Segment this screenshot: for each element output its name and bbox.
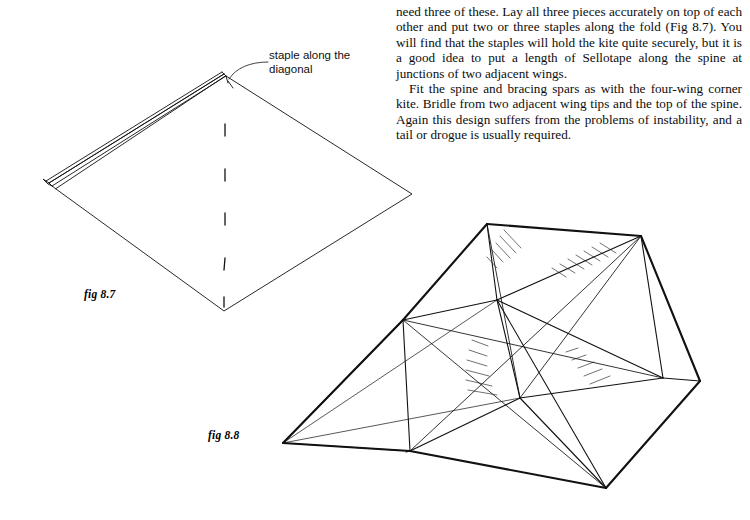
fig-8-7-diamond xyxy=(43,72,412,311)
hatching-upper-left xyxy=(487,230,521,268)
fig-8-7-leader xyxy=(229,62,268,79)
fig-8-8-bridle-lines xyxy=(283,300,520,451)
paragraph-2: Fit the spine and bracing spars as with … xyxy=(396,81,742,143)
figure-caption-8-7: fig 8.7 xyxy=(84,288,115,300)
fig-8-8-kite xyxy=(283,224,700,488)
hatching-lower-middle xyxy=(466,340,497,395)
staple-annotation-text: staple along the diagonal xyxy=(269,49,350,75)
fig-8-7-staples xyxy=(224,124,225,307)
hatching-right-lower xyxy=(566,348,610,384)
document-page: staple along the diagonal fig 8.7 fig 8.… xyxy=(0,0,750,520)
body-text-column: need three of these. Lay all three piece… xyxy=(396,4,742,143)
hatching-upper-right xyxy=(552,243,616,277)
staple-annotation: staple along the diagonal xyxy=(269,48,389,76)
figure-caption-8-8: fig 8.8 xyxy=(208,429,239,441)
paragraph-1: need three of these. Lay all three piece… xyxy=(396,4,742,81)
